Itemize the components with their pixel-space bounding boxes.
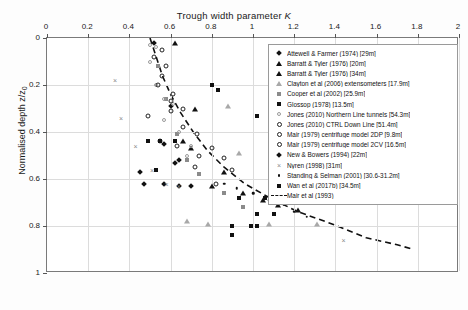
legend-item-label: Standing & Selman (2001) [30.6-31.2m] <box>287 172 400 179</box>
data-point <box>266 221 272 226</box>
legend-item-label: Jones (2010) Northern Line tunnels [54.3… <box>287 111 410 118</box>
gridline-vertical <box>129 38 130 271</box>
legend-marker-icon <box>271 191 287 201</box>
data-point <box>295 207 301 212</box>
x-axis-tick <box>459 34 460 38</box>
x-axis-tick-label: 0.8 <box>205 22 216 31</box>
data-point <box>184 219 190 224</box>
legend-item-label: Cooper et al (2002) [25.9m] <box>287 90 365 97</box>
x-axis-tick <box>294 34 295 38</box>
x-axis-tick <box>253 34 254 38</box>
legend-item-label: Barratt & Tyler (1976) [20m] <box>287 60 366 67</box>
x-axis-tick-label: 1.2 <box>288 22 299 31</box>
data-point: × <box>177 183 181 190</box>
legend-item: New & Bowers (1994) [22m] <box>271 150 454 160</box>
data-point <box>230 167 235 172</box>
data-point <box>146 139 150 143</box>
data-point <box>221 169 227 174</box>
data-point <box>188 183 194 189</box>
data-point <box>252 192 255 195</box>
legend-marker-icon <box>271 181 287 191</box>
data-point <box>156 83 161 88</box>
data-point <box>172 40 178 45</box>
legend-marker-icon <box>271 119 287 129</box>
legend-item: Barratt & Tyler (1976) [34m] <box>271 68 454 78</box>
data-point: × <box>113 77 117 84</box>
data-point <box>222 155 227 160</box>
legend-item-label: Clayton et al (2006) extensometers [17.9… <box>287 80 410 87</box>
data-point <box>180 139 186 144</box>
legend-item: Barratt & Tyler (1976) [20m] <box>271 58 454 68</box>
x-axis-tick <box>171 34 172 38</box>
gridline-vertical <box>212 38 213 271</box>
data-point: × <box>119 114 123 121</box>
gridline-vertical <box>171 38 172 271</box>
legend-item-label: Jones (2010) CTRL Down Line [51.4m] <box>287 121 398 128</box>
x-axis-tick-label: 1.4 <box>329 22 340 31</box>
gridline-vertical <box>253 38 254 271</box>
legend-item-label: Barratt & Tyler (1976) [34m] <box>287 70 366 77</box>
data-point <box>237 196 241 200</box>
x-axis-tick-label: 1 <box>250 22 254 31</box>
data-point <box>205 221 211 226</box>
legend-marker-icon <box>271 130 287 140</box>
y-axis-tick <box>43 132 47 133</box>
x-axis-tick <box>88 34 89 38</box>
y-axis-tick <box>43 226 47 227</box>
data-point <box>162 97 166 101</box>
x-axis-tick <box>212 34 213 38</box>
data-point <box>195 132 200 137</box>
x-axis-tick-label: 1.6 <box>370 22 381 31</box>
x-axis-tick <box>335 34 336 38</box>
gridline-vertical <box>459 38 460 271</box>
data-point <box>162 141 168 147</box>
legend-item-label: Nyren (1998) [31m] <box>287 162 342 169</box>
data-point <box>230 233 234 237</box>
dashed-line-icon <box>271 195 287 196</box>
legend-item: Standing & Selman (2001) [30.6-31.2m] <box>271 170 454 180</box>
legend-item-label: Mair et al (1993) <box>287 192 334 199</box>
legend-item: Clayton et al (2006) extensometers [17.9… <box>271 79 454 89</box>
legend-item-label: Mair (1979) centrifuge model 2CV [16.5m] <box>287 141 406 148</box>
legend-item: ×Nyren (1998) [31m] <box>271 160 454 170</box>
y-axis-tick-label: 0 <box>36 33 40 42</box>
legend-marker-icon <box>271 140 287 150</box>
legend-item-label: Attewell & Farmer (1974) [29m] <box>287 50 376 57</box>
legend-item-label: Wan et al (2017b) [34.5m] <box>287 182 361 189</box>
data-point <box>213 181 218 186</box>
data-point <box>197 153 202 158</box>
chart-figure: Trough width parameter K Normalised dept… <box>0 0 468 310</box>
data-point <box>249 224 253 228</box>
legend-marker-icon <box>271 58 287 68</box>
data-point <box>180 106 185 111</box>
chart-title: Trough width parameter K <box>0 10 468 21</box>
data-point <box>193 165 198 170</box>
x-axis-tick-label: 2 <box>456 22 460 31</box>
data-point <box>222 191 226 195</box>
legend-item-label: Mair (1979) centrifuge model 2DP [9.8m] <box>287 131 402 138</box>
data-point <box>156 64 160 68</box>
data-point <box>216 88 220 92</box>
data-point <box>230 224 234 228</box>
y-axis-tick-label: 0.8 <box>29 221 40 230</box>
legend-marker-icon <box>271 99 287 109</box>
x-axis-tick <box>129 34 130 38</box>
data-point <box>141 181 147 187</box>
data-point <box>148 43 152 47</box>
data-point <box>148 60 152 64</box>
data-point <box>154 168 158 172</box>
y-axis-tick-label: 0.6 <box>29 174 40 183</box>
legend-marker-icon <box>271 170 287 180</box>
data-point <box>162 118 166 122</box>
data-point <box>263 196 267 200</box>
data-point <box>185 154 189 158</box>
legend-item: Mair et al (1993) <box>271 191 454 201</box>
data-point <box>164 64 169 69</box>
data-point <box>293 211 296 214</box>
data-point <box>223 182 226 185</box>
y-axis-tick-label: 1 <box>36 268 40 277</box>
data-point <box>180 125 185 130</box>
y-axis-tick <box>43 38 47 39</box>
data-point: × <box>134 143 138 150</box>
data-point <box>168 99 173 104</box>
